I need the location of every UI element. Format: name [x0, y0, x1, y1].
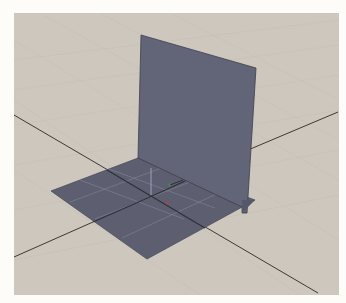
gizmo-x-handle: [166, 202, 169, 205]
3d-viewport[interactable]: [14, 13, 339, 295]
scene-canvas[interactable]: [14, 13, 339, 295]
axis-line-y-left: [14, 222, 93, 257]
